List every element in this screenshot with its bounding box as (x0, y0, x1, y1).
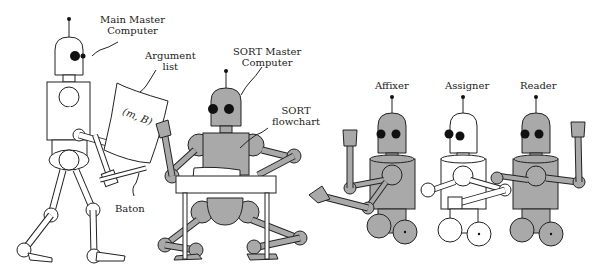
label-argument-list: Argument list (145, 50, 196, 72)
pointer-argument-list (140, 70, 156, 92)
label-affixer: Affixer (375, 80, 409, 91)
label-reader: Reader (520, 80, 557, 91)
label-assigner: Assigner (445, 80, 489, 91)
pointer-main-master (92, 42, 118, 56)
robot-illustration: Main Master Computer Argument list (m, B… (0, 0, 604, 277)
pointer-baton (133, 173, 139, 196)
label-line-1: SORT (272, 105, 320, 116)
robot-drawing (0, 0, 604, 277)
label-line-1: Main Master (100, 14, 165, 25)
affixer-robot (309, 95, 417, 244)
label-main-master-computer: Main Master Computer (100, 14, 165, 36)
assigner-robot (421, 95, 511, 246)
label-line-1: SORT Master (233, 46, 301, 57)
label-baton: Baton (115, 203, 145, 214)
label-line-2: Computer (233, 57, 301, 68)
label-sort-flowchart: SORT flowchart (272, 105, 320, 127)
pointer-sort-master (241, 67, 262, 95)
label-sort-master-computer: SORT Master Computer (233, 46, 301, 68)
label-line-2: flowchart (272, 116, 320, 127)
label-line-1: Argument (145, 50, 196, 61)
label-line-2: Computer (100, 25, 165, 36)
sort-master-robot (156, 69, 307, 260)
reader-robot (491, 95, 585, 246)
label-line-2: list (145, 61, 196, 72)
